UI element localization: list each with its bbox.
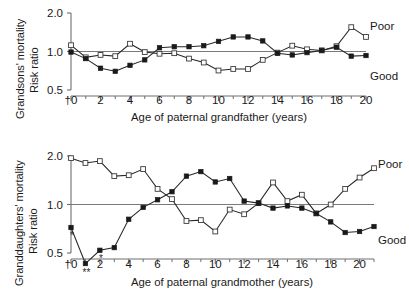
data-point-granddaughters-good-20: [357, 229, 361, 233]
y-tick-label-grandsons-1: 1.0: [47, 46, 63, 58]
data-point-grandsons-good-18: [334, 45, 338, 49]
data-point-granddaughters-poor-15: [285, 199, 290, 204]
data-point-grandsons-good-20: [364, 53, 368, 57]
x-tick-label-grandsons-0: †0: [65, 94, 78, 106]
data-point-granddaughters-poor-6: [155, 186, 160, 191]
data-point-granddaughters-poor-16: [299, 192, 304, 197]
x-tick-label-granddaughters-10: 20: [353, 258, 366, 270]
x-tick-label-granddaughters-4: 8: [183, 258, 189, 270]
data-point-granddaughters-good-15: [285, 204, 289, 208]
data-point-grandsons-poor-12: [246, 67, 251, 72]
data-point-grandsons-good-6: [157, 46, 161, 50]
x-tick-label-grandsons-10: 20: [360, 94, 373, 106]
data-point-grandsons-good-5: [143, 58, 147, 62]
data-point-granddaughters-poor-10: [213, 229, 218, 234]
x-tick-label-grandsons-7: 14: [271, 94, 284, 106]
data-point-grandsons-good-7: [172, 45, 176, 49]
data-point-granddaughters-poor-19: [343, 186, 348, 191]
x-tick-label-grandsons-1: 2: [97, 94, 103, 106]
data-point-grandsons-poor-2: [98, 53, 103, 58]
x-tick-label-grandsons-5: 10: [212, 94, 225, 106]
data-point-grandsons-good-16: [305, 50, 309, 54]
x-tick-label-grandsons-6: 12: [242, 94, 255, 106]
data-point-grandsons-poor-7: [172, 51, 177, 56]
data-point-grandsons-poor-13: [260, 57, 265, 62]
data-point-granddaughters-good-12: [242, 199, 246, 203]
data-point-granddaughters-good-1: [83, 261, 87, 265]
y-tick-label-granddaughters-0: 0.5: [47, 247, 63, 259]
data-point-grandsons-good-10: [216, 39, 220, 43]
x-tick-label-grandsons-3: 6: [156, 94, 162, 106]
x-tick-label-granddaughters-2: 4: [126, 258, 133, 270]
data-point-grandsons-good-12: [246, 35, 250, 39]
data-point-granddaughters-good-7: [170, 190, 174, 194]
plot-svg-granddaughters: 0.51.02.0†02468101214161820Age of patern…: [0, 146, 409, 302]
data-point-grandsons-good-17: [320, 48, 324, 52]
x-axis-title-granddaughters: Age of paternal grandmother (years): [131, 276, 313, 288]
x-tick-label-granddaughters-3: 6: [154, 258, 160, 270]
x-tick-label-granddaughters-8: 16: [295, 258, 308, 270]
data-point-granddaughters-poor-4: [126, 173, 131, 178]
x-tick-label-granddaughters-7: 14: [267, 258, 280, 270]
data-point-granddaughters-poor-9: [198, 218, 203, 223]
data-point-grandsons-poor-5: [142, 50, 147, 55]
data-point-granddaughters-good-13: [256, 201, 260, 205]
data-point-granddaughters-good-3: [112, 245, 116, 249]
series-label-grandsons-good: Good: [370, 70, 398, 82]
data-point-granddaughters-poor-2: [97, 159, 102, 164]
panel-grandsons: Grandsons' mortality Risk ratio 0.51.02.…: [0, 0, 409, 146]
data-point-grandsons-poor-6: [157, 51, 162, 56]
data-point-grandsons-poor-11: [231, 67, 236, 72]
y-tick-label-granddaughters-1: 1.0: [47, 199, 63, 211]
data-point-granddaughters-good-4: [127, 217, 131, 221]
data-point-grandsons-poor-0: [69, 43, 74, 48]
data-point-grandsons-good-19: [349, 54, 353, 58]
x-tick-label-grandsons-9: 18: [330, 94, 343, 106]
x-tick-label-granddaughters-9: 18: [324, 258, 337, 270]
x-tick-label-grandsons-8: 16: [301, 94, 314, 106]
x-tick-label-granddaughters-5: 10: [209, 258, 222, 270]
series-label-grandsons-poor: Poor: [370, 20, 394, 32]
data-point-grandsons-good-9: [202, 44, 206, 48]
x-tick-label-grandsons-4: 8: [186, 94, 192, 106]
data-point-grandsons-poor-8: [187, 56, 192, 61]
data-point-granddaughters-poor-7: [170, 197, 175, 202]
plot-svg-grandsons: 0.51.02.0†02468101214161820Age of patern…: [0, 0, 409, 146]
data-point-grandsons-poor-10: [216, 68, 221, 73]
series-label-granddaughters-good: Good: [378, 234, 406, 246]
data-point-granddaughters-good-9: [199, 169, 203, 173]
data-point-grandsons-poor-19: [349, 25, 354, 30]
data-point-grandsons-good-14: [275, 51, 279, 55]
y-tick-label-granddaughters-2: 2.0: [47, 150, 63, 162]
data-point-grandsons-good-8: [187, 45, 191, 49]
data-point-granddaughters-good-2: [98, 248, 102, 252]
x-tick-label-granddaughters-0: †0: [65, 258, 78, 270]
data-point-grandsons-good-11: [231, 35, 235, 39]
data-point-granddaughters-good-21: [372, 224, 376, 228]
data-point-grandsons-good-4: [128, 63, 132, 67]
data-point-grandsons-poor-9: [201, 60, 206, 65]
data-point-granddaughters-poor-5: [141, 167, 146, 172]
data-point-grandsons-good-1: [84, 56, 88, 60]
data-point-granddaughters-good-11: [228, 176, 232, 180]
data-point-granddaughters-poor-18: [328, 202, 333, 207]
data-point-grandsons-poor-20: [364, 35, 369, 40]
data-point-granddaughters-good-19: [343, 230, 347, 234]
significance-marker-granddaughters-0: *: [70, 230, 74, 241]
data-point-granddaughters-poor-21: [372, 166, 377, 171]
data-point-granddaughters-poor-20: [357, 175, 362, 180]
data-point-granddaughters-good-17: [314, 211, 318, 215]
panel-granddaughters: Granddaughters' mortality Risk ratio 0.5…: [0, 146, 409, 302]
data-point-granddaughters-good-14: [271, 206, 275, 210]
data-point-granddaughters-good-0: [69, 225, 73, 229]
data-point-granddaughters-poor-8: [184, 219, 189, 224]
data-point-granddaughters-good-18: [329, 220, 333, 224]
series-label-granddaughters-poor: Poor: [378, 158, 402, 170]
x-tick-label-grandsons-2: 4: [127, 94, 134, 106]
data-point-grandsons-poor-3: [113, 54, 118, 59]
x-tick-label-granddaughters-6: 12: [238, 258, 251, 270]
data-point-granddaughters-poor-1: [83, 161, 88, 166]
data-point-granddaughters-poor-12: [242, 212, 247, 217]
data-point-granddaughters-poor-3: [112, 174, 117, 179]
data-point-grandsons-good-3: [113, 69, 117, 73]
